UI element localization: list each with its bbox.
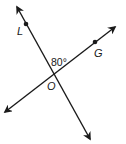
label-o: O [47,80,56,92]
label-g: G [94,47,103,59]
label-l: L [17,25,23,37]
line-go [5,27,115,112]
angle-diagram: L G O 80° [0,0,126,144]
point-g [93,40,98,45]
angle-label: 80° [51,56,67,68]
point-l [24,22,29,27]
line-lo [17,7,90,139]
